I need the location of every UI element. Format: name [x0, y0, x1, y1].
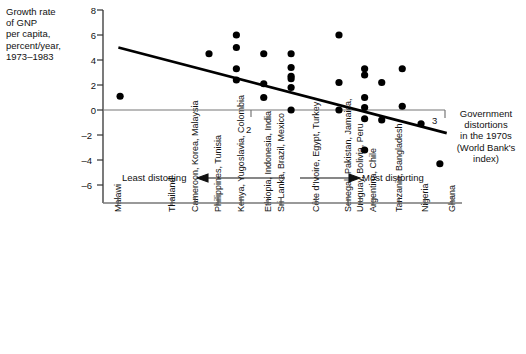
data-point — [288, 75, 295, 82]
data-point — [436, 160, 443, 167]
data-point — [205, 50, 212, 57]
x-tick-marks-zero-line — [251, 110, 445, 118]
data-point — [399, 103, 406, 110]
data-points — [117, 31, 444, 167]
data-point — [361, 71, 368, 78]
data-point — [117, 93, 124, 100]
most-distorting-arrow — [300, 174, 360, 182]
least-distorting-arrow — [197, 174, 285, 182]
data-point — [233, 31, 240, 38]
data-point — [361, 65, 368, 72]
data-point — [378, 116, 385, 123]
scatter-chart-figure: Growth rate of GNP per capita, percent/y… — [0, 0, 526, 354]
data-point — [361, 146, 368, 153]
data-point — [335, 31, 342, 38]
data-point — [260, 94, 267, 101]
data-point — [361, 94, 368, 101]
data-point — [361, 115, 368, 122]
data-point — [260, 80, 267, 87]
chart-canvas — [0, 0, 526, 354]
data-point — [399, 65, 406, 72]
data-point — [378, 79, 385, 86]
data-point — [361, 104, 368, 111]
trend-line — [118, 48, 446, 134]
data-point — [288, 84, 295, 91]
data-point — [260, 50, 267, 57]
data-point — [335, 79, 342, 86]
data-point — [288, 106, 295, 113]
data-point — [233, 76, 240, 83]
x-category-tick-marks — [118, 197, 452, 205]
y-tick-marks — [97, 10, 103, 185]
data-point — [335, 106, 342, 113]
data-point — [233, 65, 240, 72]
data-point — [417, 120, 424, 127]
data-point — [233, 44, 240, 51]
data-point — [288, 50, 295, 57]
data-point — [288, 64, 295, 71]
